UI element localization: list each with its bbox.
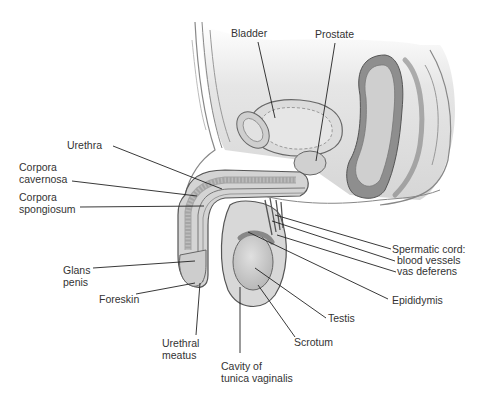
label-bladder: Bladder <box>231 28 267 40</box>
anatomy-diagram: Bladder Prostate Urethra Corpora caverno… <box>0 0 479 393</box>
glans-shape <box>180 250 207 286</box>
label-cavity-tunica-vaginalis: Cavity of tunica vaginalis <box>221 361 293 384</box>
testis-shape <box>233 234 273 290</box>
label-foreskin: Foreskin <box>99 294 139 306</box>
label-corpora-spongiosum: Corpora spongiosum <box>19 192 76 215</box>
label-urethra: Urethra <box>67 140 102 152</box>
label-testis: Testis <box>328 313 355 325</box>
label-corpora-cavernosa: Corpora cavernosa <box>19 162 67 185</box>
label-epididymis: Epididymis <box>392 295 443 307</box>
label-scrotum: Scrotum <box>294 337 333 349</box>
label-prostate: Prostate <box>315 29 354 41</box>
label-urethral-meatus: Urethral meatus <box>162 338 199 361</box>
label-vas-deferens: vas deferens <box>397 266 457 278</box>
label-glans-penis: Glans penis <box>63 265 90 288</box>
